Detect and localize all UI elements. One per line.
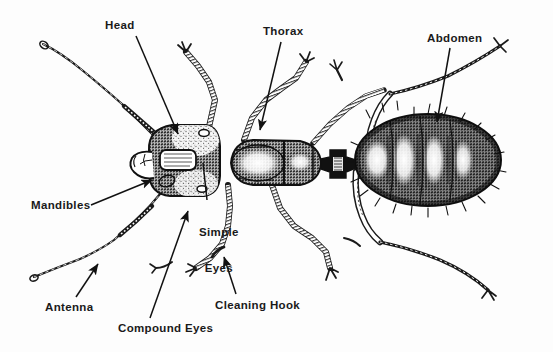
label-simple-eyes: Simple Eyes (199, 202, 239, 298)
label-layer: Head Thorax Abdomen Mandibles Simple Eye… (0, 0, 553, 352)
label-head: Head (105, 19, 135, 32)
label-thorax: Thorax (263, 25, 303, 38)
label-compound-eyes: Compound Eyes (118, 322, 213, 335)
ant-anatomy-diagram: Head Thorax Abdomen Mandibles Simple Eye… (0, 0, 553, 352)
label-cleaning-hook: Cleaning Hook (215, 299, 300, 312)
label-antenna: Antenna (45, 301, 93, 314)
label-abdomen: Abdomen (427, 32, 482, 45)
label-simple-eyes-line1: Simple (199, 226, 239, 238)
label-mandibles: Mandibles (31, 199, 90, 212)
label-simple-eyes-line2: Eyes (199, 262, 239, 274)
